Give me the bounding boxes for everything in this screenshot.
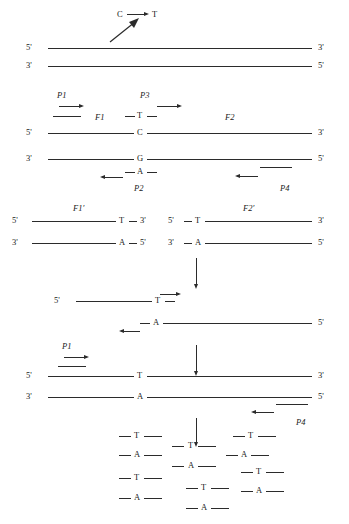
template-top-left-end: 5' <box>26 43 32 52</box>
anneal-top-base: T <box>155 296 160 305</box>
f2p-bottom-head <box>184 243 192 244</box>
f2p-bottom-right-end: 5' <box>318 238 324 247</box>
amp-bottom-base: A <box>137 392 143 401</box>
product-l3-left-seg <box>119 478 131 479</box>
process-arrow-3-icon <box>196 418 197 442</box>
amp-bottom-right-end: 5' <box>318 392 324 401</box>
f2p-bottom-left-end: 3' <box>168 238 174 247</box>
template-bottom-strand <box>48 66 312 67</box>
f2p-top-strand <box>205 221 312 222</box>
amp-bottom-strand-right <box>147 397 312 398</box>
amp-bottom-left-end: 3' <box>26 392 32 401</box>
product-l3-base: T <box>134 473 139 482</box>
amp-top-right-end: 3' <box>318 371 324 380</box>
f2p-bottom-base: A <box>195 238 201 247</box>
amp-top-base: T <box>137 371 142 380</box>
f1p-top-left-end: 5' <box>12 216 18 225</box>
primer-p1-label: P1 <box>57 91 66 100</box>
product-r1-base: T <box>248 431 253 440</box>
primer-p3-right-segment <box>147 116 157 117</box>
product-l4-right-seg <box>144 498 162 499</box>
product-m2-base: A <box>188 461 194 470</box>
template-bottom-right-end: 5' <box>318 61 324 70</box>
product-m4-base: A <box>201 503 207 512</box>
f1p-bottom-left-end: 3' <box>12 238 18 247</box>
product-l2-left-seg <box>119 455 131 456</box>
product-l2-right-seg <box>144 455 162 456</box>
pcr-top-left-end: 5' <box>26 128 32 137</box>
f2p-top-right-end: 3' <box>318 216 324 225</box>
fragment-f1-label: F1 <box>95 113 104 122</box>
product-r1-right-seg <box>258 436 276 437</box>
primer-p3-direction-arrow-icon <box>157 106 177 107</box>
primer-p2-right-segment <box>147 172 157 173</box>
product-l1-right-seg <box>144 436 162 437</box>
primer-p4-direction-arrow-icon <box>240 176 258 177</box>
product-l1-left-seg <box>119 436 131 437</box>
anneal-bottom-strand <box>163 323 312 324</box>
pcr-top-base-c: C <box>137 128 143 137</box>
product-m4-right-seg <box>211 508 229 509</box>
f1p-top-tail <box>129 221 137 222</box>
f1p-top-strand <box>32 221 116 222</box>
product-r4-base: A <box>256 486 262 495</box>
product-m3-base: T <box>201 483 206 492</box>
mutation-arrow-icon <box>127 14 144 15</box>
anneal-extension-arrow-icon <box>160 294 176 295</box>
process-arrow-1-icon <box>196 258 197 284</box>
product-r3-right-seg <box>266 472 284 473</box>
anneal-top-left-end: 5' <box>54 296 60 305</box>
anneal-bottom-base: A <box>153 318 159 327</box>
f1p-bottom-strand <box>32 243 116 244</box>
product-r3-left-seg <box>241 472 253 473</box>
primer-p3-left-segment <box>125 116 135 117</box>
product-r2-base: A <box>241 450 247 459</box>
f1p-bottom-tail <box>129 243 137 244</box>
primer-p4-label: P4 <box>280 184 289 193</box>
product-l2-base: A <box>134 450 140 459</box>
f1p-bottom-right-end: 5' <box>140 238 146 247</box>
amp-top-strand-left <box>48 376 134 377</box>
primer-p2-label: P2 <box>134 184 143 193</box>
mutation-pointer-icon <box>108 18 142 44</box>
product-r3-base: T <box>256 467 261 476</box>
amp-primer-p4-label: P4 <box>296 418 305 427</box>
product-m1-left-seg <box>172 446 184 447</box>
template-top-strand <box>48 48 312 49</box>
pcr-top-strand-right <box>147 133 312 134</box>
f2p-top-left-end: 5' <box>168 216 174 225</box>
fragment-f2-prime-label: F2′ <box>243 204 254 213</box>
anneal-bottom-right-end: 5' <box>318 318 324 327</box>
primer-p1-direction-arrow-icon <box>59 106 79 107</box>
amp-primer-p1-arrow-icon <box>64 357 84 358</box>
product-m1-right-seg <box>198 446 216 447</box>
template-bottom-left-end: 3' <box>26 61 32 70</box>
pcr-bottom-strand-left <box>48 159 134 160</box>
pcr-bottom-left-end: 3' <box>26 154 32 163</box>
anneal-bottom-extension-arrow-icon <box>124 331 140 332</box>
f2p-bottom-strand <box>205 243 312 244</box>
amp-primer-p1-segment <box>58 366 86 367</box>
pcr-top-strand-left <box>48 133 134 134</box>
product-l4-left-seg <box>119 498 131 499</box>
mutation-to-label: T <box>152 10 157 19</box>
pcr-top-right-end: 3' <box>318 128 324 137</box>
primer-p2-direction-arrow-icon <box>105 177 123 178</box>
f1p-top-right-end: 3' <box>140 216 146 225</box>
primer-p3-label: P3 <box>140 91 149 100</box>
amp-top-strand-right <box>147 376 312 377</box>
f1p-top-base: T <box>119 216 124 225</box>
product-l4-base: A <box>134 493 140 502</box>
product-r4-left-seg <box>241 491 253 492</box>
product-l1-base: T <box>134 431 139 440</box>
figure-canvas: C T 5' 3' 3' 5' P1 F1 P3 T F2 5' C 3' <box>0 0 349 524</box>
anneal-top-strand <box>76 301 152 302</box>
product-m1-base: T <box>188 441 193 450</box>
primer-p3-base: T <box>137 111 142 120</box>
f2p-top-head <box>184 221 192 222</box>
pcr-bottom-strand-right <box>147 159 312 160</box>
anneal-top-tail <box>165 301 175 302</box>
product-r2-right-seg <box>251 455 269 456</box>
product-m2-right-seg <box>198 466 216 467</box>
primer-p4-segment <box>260 167 292 168</box>
